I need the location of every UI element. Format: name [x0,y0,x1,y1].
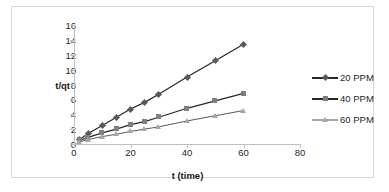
data-point-40-ppm [142,119,147,124]
x-tick-label-60: 60 [229,148,259,158]
y-tick-mark [70,114,74,115]
y-tick-mark [70,99,74,100]
y-axis-title: t/qt [26,80,70,91]
legend-label-20ppm: 20 PPM [340,72,374,83]
legend-item-20ppm[interactable]: 20 PPM [312,67,389,88]
data-point-60-ppm [127,128,133,133]
data-point-40-ppm [156,114,161,119]
series-lines [74,25,301,145]
data-point-40-ppm [212,98,217,103]
legend-label-40ppm: 40 PPM [340,93,374,104]
x-tick-label-20: 20 [116,148,146,158]
data-point-40-ppm [184,106,189,111]
data-point-40-ppm [241,91,246,96]
y-tick-mark [70,40,74,41]
legend-label-60ppm: 60 PPM [340,114,374,125]
data-point-60-ppm [141,126,147,131]
x-axis-title: t (time) [74,170,301,181]
y-tick-mark [70,85,74,86]
x-tick-label-0: 0 [59,148,89,158]
legend-item-60ppm[interactable]: 60 PPM [312,109,389,130]
data-point-60-ppm [76,139,82,144]
legend-marker-triangle-icon [312,115,338,125]
legend-item-40ppm[interactable]: 40 PPM [312,88,389,109]
data-point-40-ppm [128,122,133,127]
y-tick-mark [70,55,74,56]
chart-container: 16 14 12 10 8 6 4 2 0 t/qt 0 20 40 60 80… [11,6,374,178]
legend-marker-square-icon [312,94,338,104]
data-point-60-ppm [99,134,105,139]
data-point-60-ppm [85,137,91,142]
x-tick-label-40: 40 [172,148,202,158]
y-tick-mark [70,25,74,26]
chart-legend: 20 PPM 40 PPM 60 PPM [312,67,389,130]
data-point-60-ppm [184,118,190,123]
y-tick-mark [70,129,74,130]
legend-marker-diamond-icon [312,73,338,83]
plot-area [74,25,300,144]
data-point-60-ppm [240,108,246,113]
data-point-60-ppm [212,113,218,118]
y-axis-line [74,25,75,145]
x-tick-label-80: 80 [285,148,315,158]
y-tick-mark [70,70,74,71]
data-point-60-ppm [113,131,119,136]
data-point-60-ppm [155,124,161,129]
